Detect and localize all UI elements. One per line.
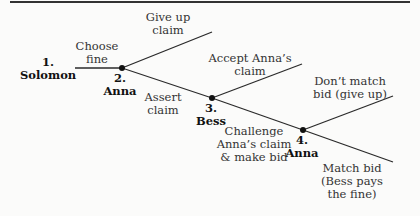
edge-give-up-claim <box>122 32 212 68</box>
label-line: fine <box>74 53 120 66</box>
label-line: claim <box>141 104 185 117</box>
node-1-player: Solomon <box>20 69 76 82</box>
label-line: the fine) <box>315 188 389 201</box>
edge-label-assert: Assert claim <box>141 91 185 117</box>
label-line: bid (give up) <box>310 88 390 101</box>
edge-dont-match <box>303 96 393 130</box>
node-1: 1. Solomon <box>20 56 76 82</box>
label-line: claim <box>207 65 293 78</box>
edge-label-dont-match: Don’t match bid (give up) <box>310 75 390 101</box>
edge-label-give-up: Give up claim <box>138 11 198 37</box>
node-2-player: Anna <box>100 85 140 98</box>
edge-label-choose-fine: Choose fine <box>74 40 120 66</box>
edge-label-accept: Accept Anna’s claim <box>207 52 293 78</box>
edge-label-challenge: Challenge Anna’s claim & make bid <box>214 125 294 164</box>
edge-label-match-bid: Match bid (Bess pays the fine) <box>315 162 389 201</box>
label-line: claim <box>138 24 198 37</box>
label-line: & make bid <box>214 151 294 164</box>
node-2: 2. Anna <box>100 72 140 98</box>
